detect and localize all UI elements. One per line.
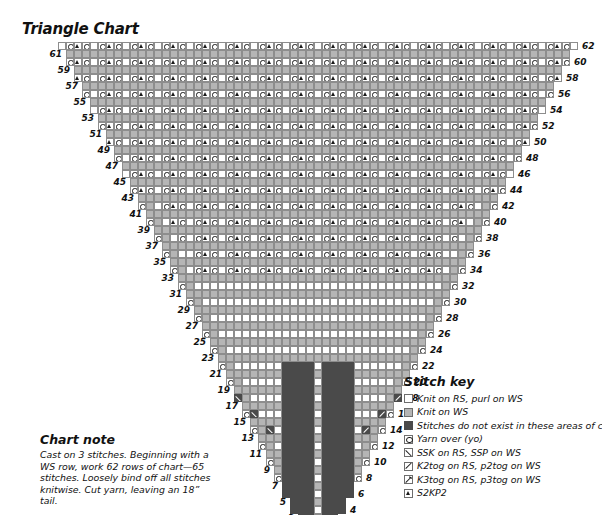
chart-cell (130, 74, 138, 82)
yo-icon (179, 43, 185, 49)
chart-cell (274, 458, 282, 466)
chart-cell (338, 314, 346, 322)
chart-cell (178, 266, 186, 274)
chart-cell (338, 226, 346, 234)
chart-cell (250, 50, 258, 58)
s2kp2-icon (427, 203, 433, 209)
yo-icon (467, 91, 473, 97)
yo-icon (195, 43, 201, 49)
chart-cell (458, 266, 466, 274)
yo-icon (275, 187, 281, 193)
chart-cell (234, 346, 242, 354)
chart-cell (322, 202, 330, 210)
chart-cell (554, 74, 562, 82)
s2kp2-icon (491, 43, 497, 49)
yo-icon (483, 75, 489, 81)
chart-cell (402, 202, 410, 210)
yo-icon (275, 251, 281, 257)
chart-cell (378, 338, 386, 346)
chart-cell (170, 90, 178, 98)
chart-cell (250, 346, 258, 354)
yo-icon (435, 75, 441, 81)
chart-cell (290, 42, 298, 50)
chart-cell (458, 242, 466, 250)
chart-cell (370, 202, 378, 210)
chart-cell (378, 274, 386, 282)
chart-cell (506, 66, 514, 74)
chart-cell (130, 170, 138, 178)
chart-cell (314, 330, 322, 338)
chart-cell (442, 122, 450, 130)
chart-cell (250, 74, 258, 82)
yo-icon (355, 59, 361, 65)
chart-cell (234, 114, 242, 122)
chart-cell (258, 362, 266, 370)
s2kp2-icon (331, 219, 337, 225)
chart-cell (210, 146, 218, 154)
yo-icon (435, 59, 441, 65)
chart-cell (170, 82, 178, 90)
k2tog-icon (395, 395, 401, 401)
chart-cell (282, 410, 290, 418)
chart-cell (330, 482, 338, 490)
chart-cell (314, 58, 322, 66)
chart-cell (338, 50, 346, 58)
yo-icon (323, 171, 329, 177)
chart-cell (186, 50, 194, 58)
chart-cell (186, 114, 194, 122)
stitch-key-item: Yarn over (yo) (404, 433, 600, 446)
yo-icon (179, 139, 185, 145)
chart-cell (178, 186, 186, 194)
chart-cell (298, 170, 306, 178)
chart-cell (306, 450, 314, 458)
chart-cell (258, 82, 266, 90)
chart-cell (226, 154, 234, 162)
chart-cell (466, 138, 474, 146)
chart-cell (346, 194, 354, 202)
chart-cell (178, 154, 186, 162)
chart-cell (338, 90, 346, 98)
chart-cell (346, 178, 354, 186)
yo-icon (435, 235, 441, 241)
chart-cell (346, 434, 354, 442)
s2kp2-icon (203, 107, 209, 113)
chart-cell (378, 162, 386, 170)
yo-icon (211, 171, 217, 177)
chart-cell (402, 194, 410, 202)
chart-cell (354, 170, 362, 178)
yo-icon (259, 155, 265, 161)
s2kp2-icon (139, 123, 145, 129)
chart-cell (394, 58, 402, 66)
row-number-label: 61 (44, 50, 62, 59)
yo-icon (499, 107, 505, 113)
chart-cell (330, 98, 338, 106)
yo-icon (99, 91, 105, 97)
chart-cell (194, 130, 202, 138)
chart-cell (402, 66, 410, 74)
chart-cell (226, 202, 234, 210)
chart-cell (266, 186, 274, 194)
chart-cell (282, 386, 290, 394)
s2kp2-icon (331, 171, 337, 177)
chart-cell (250, 186, 258, 194)
chart-cell (322, 130, 330, 138)
chart-cell (490, 106, 498, 114)
chart-cell (314, 82, 322, 90)
chart-cell (450, 42, 458, 50)
chart-cell (362, 458, 370, 466)
chart-cell (282, 474, 290, 482)
chart-cell (442, 98, 450, 106)
chart-cell (378, 130, 386, 138)
stitch-key: Stitch key Knit on RS, purl on WSKnit on… (404, 374, 600, 500)
chart-cell (170, 146, 178, 154)
chart-cell (258, 330, 266, 338)
yo-icon (435, 123, 441, 129)
s2kp2-icon (523, 75, 529, 81)
row-number-label: 34 (470, 266, 483, 275)
yo-icon (243, 235, 249, 241)
chart-cell (290, 330, 298, 338)
chart-cell (258, 354, 266, 362)
chart-cell (250, 258, 258, 266)
chart-cell (322, 330, 330, 338)
chart-cell (226, 114, 234, 122)
